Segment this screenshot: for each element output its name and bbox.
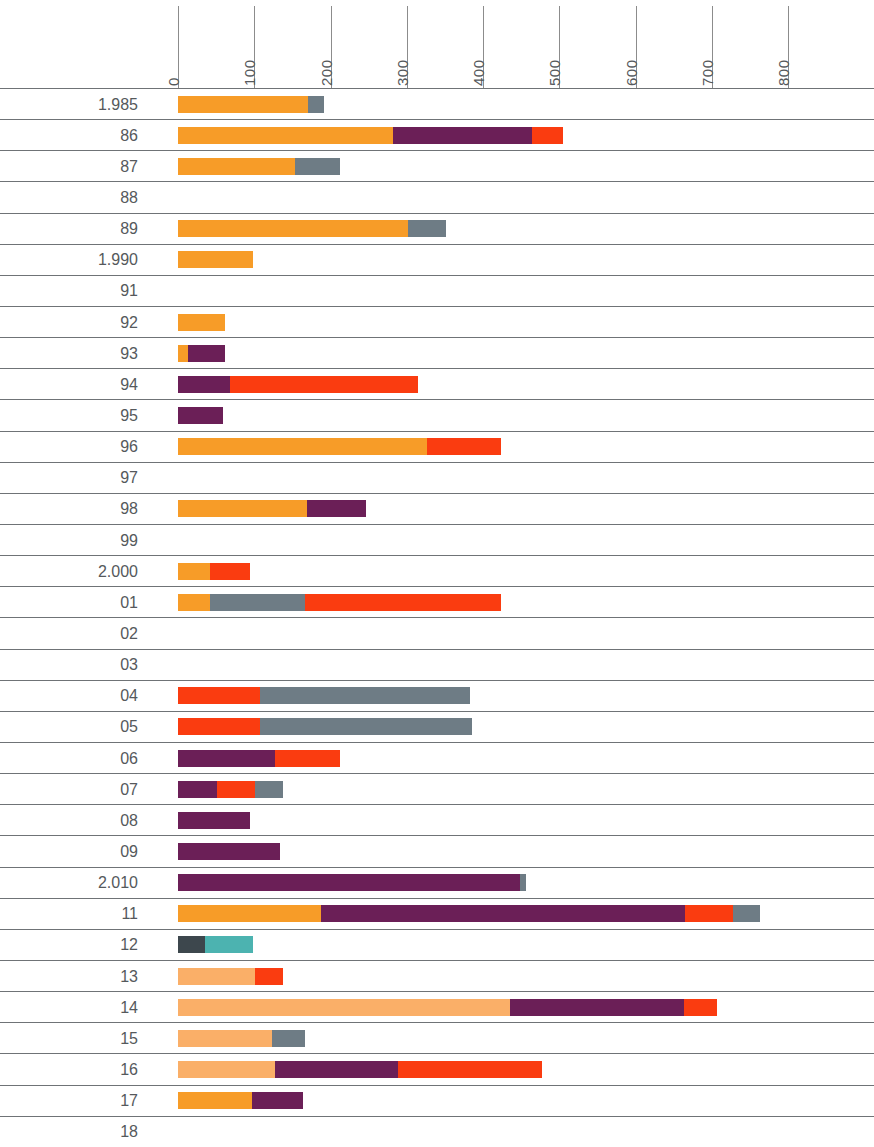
stacked-bar[interactable] bbox=[178, 874, 526, 891]
chart-row: 87 bbox=[0, 150, 874, 181]
bar-segment-light-orange[interactable] bbox=[178, 1030, 272, 1047]
bar-segment-purple[interactable] bbox=[393, 127, 532, 144]
bar-segment-purple[interactable] bbox=[252, 1092, 303, 1109]
row-label-03: 03 bbox=[0, 657, 138, 673]
stacked-bar[interactable] bbox=[178, 345, 225, 362]
bar-segment-red[interactable] bbox=[255, 968, 283, 985]
bar-segment-purple[interactable] bbox=[178, 407, 223, 424]
bar-segment-gray[interactable] bbox=[408, 220, 446, 237]
bar-segment-purple[interactable] bbox=[307, 500, 366, 517]
stacked-bar[interactable] bbox=[178, 407, 223, 424]
x-axis-tick: 500 bbox=[559, 6, 560, 88]
bar-segment-purple[interactable] bbox=[275, 1061, 398, 1078]
bar-segment-red[interactable] bbox=[178, 718, 260, 735]
bar-segment-purple[interactable] bbox=[178, 781, 217, 798]
bar-segment-light-orange[interactable] bbox=[178, 1061, 275, 1078]
stacked-bar[interactable] bbox=[178, 687, 470, 704]
bar-segment-purple[interactable] bbox=[178, 812, 250, 829]
stacked-bar[interactable] bbox=[178, 936, 253, 953]
stacked-bar[interactable] bbox=[178, 594, 501, 611]
bar-segment-light-orange[interactable] bbox=[178, 999, 510, 1016]
stacked-bar[interactable] bbox=[178, 220, 446, 237]
chart-row: 16 bbox=[0, 1053, 874, 1084]
bar-segment-orange[interactable] bbox=[178, 438, 427, 455]
stacked-bar[interactable] bbox=[178, 843, 280, 860]
chart-row: 96 bbox=[0, 431, 874, 462]
x-axis-tick: 0 bbox=[178, 6, 179, 88]
stacked-bar[interactable] bbox=[178, 1092, 303, 1109]
bar-segment-purple[interactable] bbox=[178, 750, 275, 767]
bar-segment-gray[interactable] bbox=[308, 96, 325, 113]
chart-row: 98 bbox=[0, 493, 874, 524]
stacked-bar[interactable] bbox=[178, 1061, 542, 1078]
bar-segment-orange[interactable] bbox=[178, 1092, 252, 1109]
stacked-bar[interactable] bbox=[178, 563, 250, 580]
stacked-bar[interactable] bbox=[178, 1030, 305, 1047]
stacked-bar[interactable] bbox=[178, 158, 340, 175]
bar-segment-red[interactable] bbox=[427, 438, 500, 455]
bar-segment-red[interactable] bbox=[217, 781, 255, 798]
stacked-bar[interactable] bbox=[178, 781, 283, 798]
bar-segment-red[interactable] bbox=[685, 905, 733, 922]
bar-segment-red[interactable] bbox=[178, 687, 260, 704]
stacked-bar[interactable] bbox=[178, 812, 250, 829]
row-label-04: 04 bbox=[0, 688, 138, 704]
bar-segment-red[interactable] bbox=[230, 376, 418, 393]
chart-row: 2.010 bbox=[0, 867, 874, 898]
stacked-bar[interactable] bbox=[178, 968, 283, 985]
bar-segment-orange[interactable] bbox=[178, 345, 188, 362]
bar-segment-gray[interactable] bbox=[295, 158, 340, 175]
bar-segment-orange[interactable] bbox=[178, 127, 393, 144]
x-axis-tick-label: 0 bbox=[165, 77, 182, 86]
bar-segment-red[interactable] bbox=[398, 1061, 542, 1078]
bar-segment-red[interactable] bbox=[275, 750, 340, 767]
x-axis-tick-label: 300 bbox=[394, 59, 411, 86]
bar-segment-orange[interactable] bbox=[178, 905, 321, 922]
bar-segment-gray[interactable] bbox=[260, 718, 472, 735]
bar-segment-orange[interactable] bbox=[178, 220, 408, 237]
stacked-bar[interactable] bbox=[178, 999, 717, 1016]
stacked-bar[interactable] bbox=[178, 905, 760, 922]
bar-segment-red[interactable] bbox=[210, 563, 250, 580]
stacked-bar[interactable] bbox=[178, 376, 418, 393]
bar-segment-purple[interactable] bbox=[178, 874, 520, 891]
bar-segment-orange[interactable] bbox=[178, 594, 210, 611]
stacked-bar[interactable] bbox=[178, 314, 225, 331]
bar-segment-orange[interactable] bbox=[178, 563, 210, 580]
stacked-bar[interactable] bbox=[178, 500, 366, 517]
x-axis-tick: 800 bbox=[788, 6, 789, 88]
plot-area: 1.985868788891.9909192939495969798992.00… bbox=[0, 88, 874, 1147]
bar-segment-gray[interactable] bbox=[272, 1030, 305, 1047]
bar-segment-red[interactable] bbox=[532, 127, 563, 144]
stacked-bar[interactable] bbox=[178, 750, 340, 767]
chart-row: 01 bbox=[0, 586, 874, 617]
bar-segment-dark-slate[interactable] bbox=[178, 936, 205, 953]
bar-segment-gray[interactable] bbox=[260, 687, 470, 704]
bar-segment-red[interactable] bbox=[684, 999, 717, 1016]
bar-segment-orange[interactable] bbox=[178, 96, 308, 113]
bar-segment-gray[interactable] bbox=[733, 905, 760, 922]
stacked-bar[interactable] bbox=[178, 251, 253, 268]
bar-segment-gray[interactable] bbox=[520, 874, 525, 891]
bar-segment-red[interactable] bbox=[305, 594, 500, 611]
bar-segment-light-orange[interactable] bbox=[178, 968, 255, 985]
bar-segment-orange[interactable] bbox=[178, 500, 307, 517]
bar-segment-orange[interactable] bbox=[178, 314, 225, 331]
stacked-bar[interactable] bbox=[178, 718, 472, 735]
row-label-99: 99 bbox=[0, 533, 138, 549]
bar-segment-purple[interactable] bbox=[510, 999, 685, 1016]
stacked-bar[interactable] bbox=[178, 127, 563, 144]
bar-segment-orange[interactable] bbox=[178, 158, 295, 175]
stacked-bar[interactable] bbox=[178, 438, 501, 455]
bar-segment-orange[interactable] bbox=[178, 251, 253, 268]
bar-segment-gray[interactable] bbox=[255, 781, 283, 798]
stacked-bar[interactable] bbox=[178, 96, 324, 113]
row-label-08: 08 bbox=[0, 813, 138, 829]
bar-segment-purple[interactable] bbox=[178, 376, 230, 393]
x-axis-tick: 400 bbox=[483, 6, 484, 88]
bar-segment-gray[interactable] bbox=[210, 594, 305, 611]
bar-segment-purple[interactable] bbox=[178, 843, 280, 860]
bar-segment-purple[interactable] bbox=[188, 345, 225, 362]
bar-segment-purple[interactable] bbox=[321, 905, 685, 922]
bar-segment-teal[interactable] bbox=[205, 936, 253, 953]
